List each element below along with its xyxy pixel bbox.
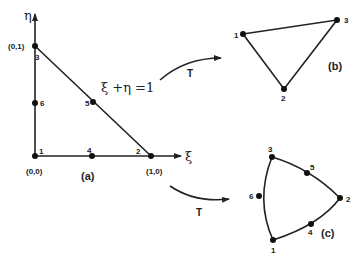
panel-a-caption: (a): [81, 170, 95, 182]
node-a-6-label: 6: [40, 99, 45, 108]
curved-arrow-icon: [170, 186, 229, 200]
panel-c-caption: (c): [321, 227, 335, 239]
panel-a-reference-triangle: η ξ ξ +η =1 (0,1) (0,0) (1,0) 1 2 3 4 5 …: [8, 8, 192, 182]
node-c-4-label: 4: [308, 228, 313, 237]
node-a-1-label: 1: [39, 147, 44, 156]
isoparametric-mapping-diagram: η ξ ξ +η =1 (0,1) (0,0) (1,0) 1 2 3 4 5 …: [0, 0, 360, 261]
node-c-6: [256, 193, 262, 199]
node-b-2-label: 2: [281, 94, 286, 103]
node-a-3: [32, 43, 38, 49]
eta-axis-label: η: [24, 8, 32, 23]
coord-label-1-0: (1,0): [146, 167, 163, 176]
node-b-2: [281, 86, 287, 92]
node-a-2-label: 2: [136, 147, 141, 156]
node-b-3: [334, 17, 340, 23]
node-c-4: [308, 221, 314, 227]
node-c-1-label: 1: [271, 246, 276, 255]
node-a-5-label: 5: [85, 99, 90, 108]
node-c-5-label: 5: [310, 163, 315, 172]
node-b-1-label: 1: [234, 31, 239, 40]
node-a-3-label: 3: [35, 53, 40, 62]
panel-c-curved-triangle: 1 2 3 4 5 6 (c): [249, 145, 351, 255]
node-c-2-label: 2: [346, 195, 351, 204]
node-c-3: [269, 154, 275, 160]
transform-arrow-upper: T: [160, 58, 221, 80]
transform-lower-label: T: [196, 207, 202, 218]
xi-axis-label: ξ: [185, 149, 192, 164]
node-a-5: [90, 99, 96, 105]
panel-b-linear-triangle: 1 2 3 (b): [234, 16, 349, 103]
node-b-3-label: 3: [344, 16, 349, 25]
node-a-2: [148, 153, 154, 159]
hypotenuse-equation: ξ +η =1: [101, 80, 154, 95]
transform-arrow-lower: T: [170, 186, 229, 218]
node-a-6: [32, 100, 38, 106]
node-c-3-label: 3: [268, 145, 273, 154]
coord-label-0-1: (0,1): [8, 42, 25, 51]
node-c-1: [270, 237, 276, 243]
coord-label-0-0: (0,0): [26, 167, 43, 176]
triangle-b-outline: [243, 20, 337, 89]
panel-b-caption: (b): [328, 60, 342, 72]
node-c-6-label: 6: [249, 192, 254, 201]
transform-upper-label: T: [187, 68, 193, 79]
node-b-1: [240, 31, 246, 37]
node-a-4-label: 4: [87, 146, 92, 155]
node-a-1: [32, 153, 38, 159]
node-c-2: [337, 195, 343, 201]
